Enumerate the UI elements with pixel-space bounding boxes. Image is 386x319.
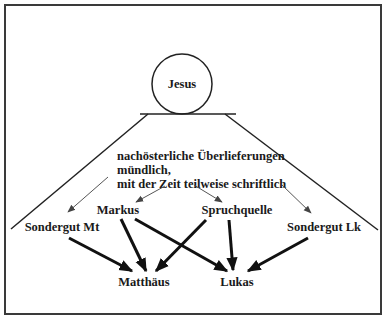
tradition-line-3: mit der Zeit teilweise schriftlich (117, 177, 286, 191)
markus-label: Markus (97, 203, 140, 217)
sondergut-mt-label: Sondergut Mt (25, 220, 100, 234)
tradition-line-2: mündlich, (117, 163, 171, 177)
arrow-spruchquelle-to-matthaeus (156, 220, 206, 271)
lukas-label: Lukas (220, 275, 253, 289)
spruchquelle-label: Spruchquelle (202, 203, 273, 217)
arrow-markus-to-matthaeus (121, 219, 146, 271)
tradition-line-1: nachösterliche Überlieferungen (117, 149, 285, 163)
synoptic-diagram: Jesus nachösterliche Überlieferungen mün… (0, 0, 386, 319)
arrow-spruchquelle-to-lukas (229, 220, 233, 270)
arrow-tradition-to-sondergut-lk (282, 185, 311, 213)
arrow-sondergut-mt-to-matthaeus (69, 238, 132, 271)
matthaeus-label: Matthäus (118, 275, 170, 289)
arrow-sondergut-lk-to-lukas (248, 238, 308, 271)
sondergut-lk-label: Sondergut Lk (287, 220, 361, 234)
jesus-label: Jesus (168, 77, 197, 91)
